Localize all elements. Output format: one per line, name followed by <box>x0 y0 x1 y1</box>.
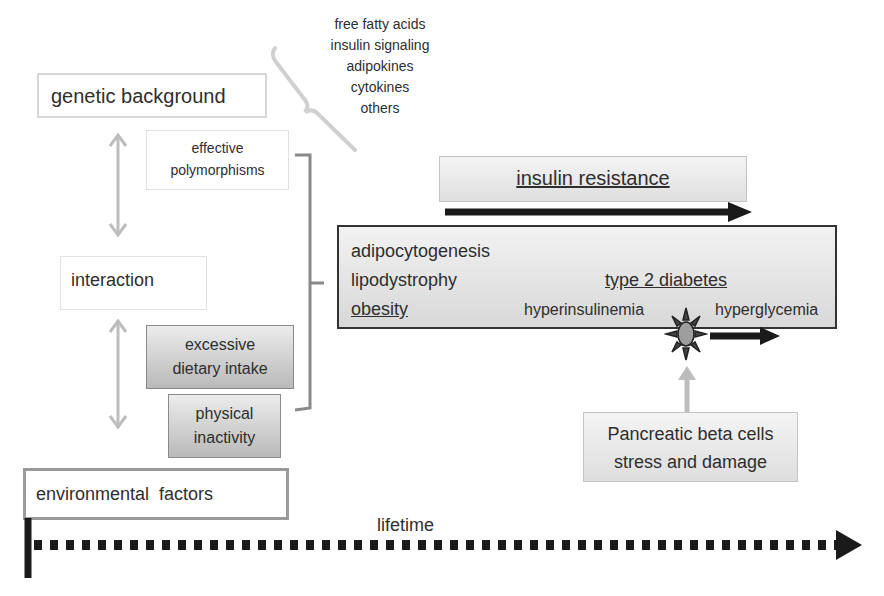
physical-inactivity-line1: physical <box>169 402 280 426</box>
lipodystrophy-label: lipodystrophy <box>351 270 457 291</box>
insulin-resistance-arrow <box>440 200 760 226</box>
pancreatic-line1: Pancreatic beta cells <box>584 420 797 448</box>
interaction-label: interaction <box>71 270 154 291</box>
excessive-dietary-intake-box: excessive dietary intake <box>146 325 294 389</box>
adipocytogenesis-label: adipocytogenesis <box>351 241 490 262</box>
insulin-resistance-label: insulin resistance <box>440 167 746 190</box>
type2-diabetes-label: type 2 diabetes <box>605 270 727 291</box>
obesity-label: obesity <box>351 299 408 320</box>
excessive-dietary-intake-line2: dietary intake <box>147 357 293 381</box>
physical-inactivity-box: physical inactivity <box>168 394 281 458</box>
pancreatic-beta-cells-box: Pancreatic beta cells stress and damage <box>583 412 798 482</box>
genetic-interaction-arrow <box>100 130 136 242</box>
genetic-background-box: genetic background <box>37 73 267 118</box>
hyperinsulinemia-label: hyperinsulinemia <box>524 301 644 319</box>
environmental-factors-box: environmental factors <box>23 468 289 520</box>
factors-bracket <box>290 150 330 415</box>
effective-polymorphisms-line1: effective <box>147 137 288 159</box>
genetic-background-label: genetic background <box>51 85 226 108</box>
pancreatic-line2: stress and damage <box>584 448 797 476</box>
main-pathology-box: adipocytogenesis lipodystrophy type 2 di… <box>337 225 837 329</box>
effective-polymorphisms-line2: polymorphisms <box>147 159 288 181</box>
lifetime-timeline-arrow <box>20 518 884 580</box>
interaction-environment-arrow <box>100 316 136 434</box>
hyperglycemia-arrow <box>708 325 784 347</box>
pancreatic-up-arrow <box>676 364 698 414</box>
hyperglycemia-label: hyperglycemia <box>715 301 818 319</box>
physical-inactivity-line2: inactivity <box>169 426 280 450</box>
excessive-dietary-intake-line1: excessive <box>147 333 293 357</box>
mediator-item: free fatty acids <box>300 14 460 35</box>
effective-polymorphisms-box: effective polymorphisms <box>146 130 289 190</box>
beta-cell-burst-icon <box>664 306 708 362</box>
environmental-factors-label: environmental factors <box>36 484 213 505</box>
insulin-resistance-box: insulin resistance <box>439 156 747 202</box>
interaction-box: interaction <box>60 256 207 310</box>
